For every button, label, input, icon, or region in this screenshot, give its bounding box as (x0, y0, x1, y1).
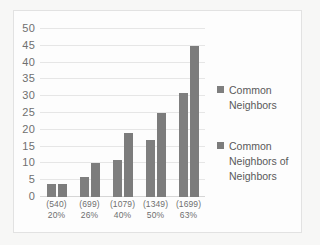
y-axis-tick-label: 25 (22, 106, 35, 118)
x-axis-label-percent: 26% (73, 210, 106, 221)
x-axis-label-count: (1079) (106, 199, 139, 210)
legend-label: CommonNeighbors ofNeighbors (229, 139, 289, 184)
bar (146, 140, 155, 197)
bar-group (47, 29, 67, 197)
legend-label-line: Neighbors of (229, 154, 289, 169)
legend-entry[interactable]: CommonNeighbors (217, 83, 307, 113)
bar (80, 177, 89, 197)
bar (113, 160, 122, 197)
bar (124, 133, 133, 197)
legend-swatch-icon (217, 142, 224, 149)
y-axis-tick-label: 30 (22, 89, 35, 101)
y-axis-tick-label: 10 (22, 156, 35, 168)
bar-group (80, 29, 100, 197)
chart-frame: 50454035302520151050 (540)20%(699)26%(10… (13, 10, 302, 233)
bar (58, 184, 67, 197)
bar-group (146, 29, 166, 197)
y-axis-tick-label: 20 (22, 123, 35, 135)
chart-legend: CommonNeighborsCommonNeighbors ofNeighbo… (217, 83, 307, 210)
legend-label-line: Common (229, 139, 289, 154)
bar (190, 46, 199, 197)
x-axis-label-percent: 50% (139, 210, 172, 221)
x-axis-label: (1349)50% (139, 199, 172, 221)
x-axis-label-count: (1349) (139, 199, 172, 210)
legend-label-line: Common (229, 83, 277, 98)
x-axis-label-percent: 63% (172, 210, 205, 221)
y-axis-tick-label: 40 (22, 56, 35, 68)
y-axis-tick-label: 5 (29, 173, 35, 185)
bar-group (179, 29, 199, 197)
bar (157, 113, 166, 197)
x-axis-label-percent: 20% (40, 210, 73, 221)
bar (179, 93, 188, 197)
legend-label-line: Neighbors (229, 169, 289, 184)
y-axis-tick-label: 50 (22, 22, 35, 34)
x-axis-label: (540)20% (40, 199, 73, 221)
legend-entry[interactable]: CommonNeighbors ofNeighbors (217, 139, 307, 184)
plot-area: 50454035302520151050 (40, 29, 205, 197)
x-axis-label: (1699)63% (172, 199, 205, 221)
y-axis-tick-label: 15 (22, 140, 35, 152)
y-axis-tick-label: 35 (22, 72, 35, 84)
y-axis-tick-label: 45 (22, 39, 35, 51)
x-axis-label-percent: 40% (106, 210, 139, 221)
bar (47, 184, 56, 197)
x-axis-labels: (540)20%(699)26%(1079)40%(1349)50%(1699)… (40, 199, 205, 221)
x-axis-label-count: (699) (73, 199, 106, 210)
x-axis-label: (1079)40% (106, 199, 139, 221)
bar (91, 163, 100, 197)
bar-series-container (40, 29, 205, 197)
legend-swatch-icon (217, 86, 224, 93)
bar-group (113, 29, 133, 197)
legend-label: CommonNeighbors (229, 83, 277, 113)
x-axis-label-count: (1699) (172, 199, 205, 210)
legend-label-line: Neighbors (229, 98, 277, 113)
x-axis-label: (699)26% (73, 199, 106, 221)
x-axis-label-count: (540) (40, 199, 73, 210)
y-axis-tick-label: 0 (29, 190, 35, 202)
